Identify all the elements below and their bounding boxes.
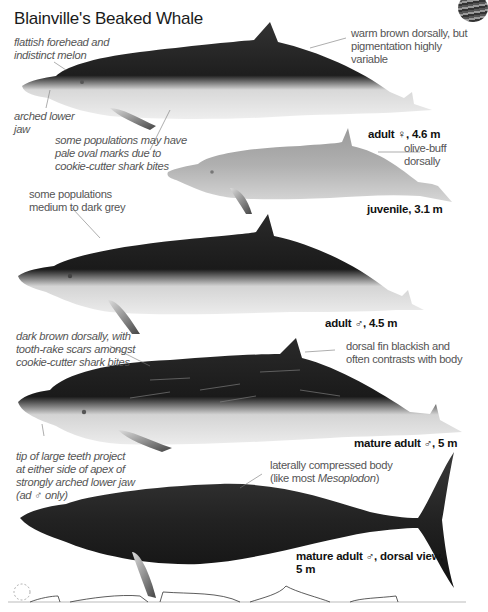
- annotation-text: ): [376, 472, 379, 484]
- annotation-line: dark brown dorsally, with: [16, 330, 135, 343]
- annotation-line: tip of large teeth project: [16, 450, 135, 463]
- annotation-line: some populations: [29, 188, 125, 201]
- annotation-forehead: flattish forehead and indistinct melon: [14, 36, 109, 62]
- annotation-dorsal-fin: dorsal fin blackish and often contrasts …: [346, 340, 462, 366]
- annotation-line: pigmentation highly variable: [351, 40, 478, 66]
- caption-adult-male: adult ♂, 4.5 m: [325, 317, 397, 330]
- annotation-dark-brown: dark brown dorsally, with tooth-rake sca…: [16, 330, 135, 369]
- caption-dorsal-view: mature adult ♂, dorsal view, 5 m: [296, 550, 443, 576]
- annotation-line: at either side of apex of: [16, 463, 135, 476]
- annotation-line: dorsal fin blackish and: [346, 340, 462, 353]
- annotation-line: olive-buff: [404, 142, 446, 155]
- annotation-lower-jaw: arched lower jaw: [14, 110, 74, 136]
- caption-mature-adult-male: mature adult ♂, 5 m: [354, 437, 457, 450]
- annotation-line: (ad ♂ only): [16, 489, 135, 502]
- annotation-line: warm brown dorsally, but: [351, 27, 478, 40]
- annotation-line: indistinct melon: [14, 49, 109, 62]
- annotation-line: flattish forehead and: [14, 36, 109, 49]
- annotation-line: (like most Mesoplodon): [270, 472, 392, 485]
- annotation-line: often contrasts with body: [346, 353, 462, 366]
- annotation-line: arched lower: [14, 110, 74, 123]
- whale-adult-male: [18, 214, 424, 334]
- annotation-line: cookie-cutter shark bites: [16, 356, 135, 369]
- annotation-oval-marks: some populations may have pale oval mark…: [55, 134, 187, 173]
- annotation-text: (like most: [270, 472, 318, 484]
- annotation-grey: some populations medium to dark grey: [29, 188, 125, 214]
- genus-name: Mesoplodon: [318, 472, 376, 484]
- annotation-line: medium to dark grey: [29, 201, 125, 214]
- annotation-teeth: tip of large teeth project at either sid…: [16, 450, 135, 502]
- annotation-line: dorsally: [404, 155, 446, 168]
- annotation-line: cookie-cutter shark bites: [55, 160, 187, 173]
- annotation-line: some populations may have: [55, 134, 187, 147]
- annotation-line: tooth-rake scars amongst: [16, 343, 135, 356]
- caption-line: 5 m: [296, 563, 443, 576]
- caption-adult-female: adult ♀, 4.6 m: [368, 128, 440, 141]
- annotation-warm-brown: warm brown dorsally, but pigmentation hi…: [351, 27, 478, 66]
- caption-juvenile: juvenile, 3.1 m: [367, 203, 443, 216]
- annotation-line: pale oval marks due to: [55, 147, 187, 160]
- annotation-line: laterally compressed body: [270, 459, 392, 472]
- annotation-olive-buff: olive-buff dorsally: [404, 142, 446, 168]
- caption-line: mature adult ♂, dorsal view,: [296, 550, 443, 563]
- dive-profile-silhouettes: [8, 584, 466, 602]
- annotation-compressed-body: laterally compressed body (like most Mes…: [270, 459, 392, 485]
- annotation-line: strongly arched lower jaw: [16, 476, 135, 489]
